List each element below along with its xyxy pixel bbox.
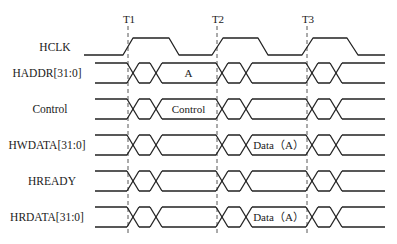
signal-label: Control [32, 103, 67, 115]
bus-hready [95, 171, 385, 191]
bus-value-label: Control [172, 103, 206, 115]
time-markers: T1T2T3 [123, 13, 315, 234]
hclk-waveform [84, 38, 385, 55]
bus-waveforms: AControlData（A）Data（A） [95, 63, 385, 227]
timing-diagram: T1T2T3 AControlData（A）Data（A） HADDR[31:0… [0, 0, 397, 244]
bus-value-label: Data（A） [253, 139, 304, 151]
marker-label-t2: T2 [212, 13, 224, 25]
signal-labels: HADDR[31:0]ControlHWDATA[31:0]HREADYHRDA… [8, 41, 85, 223]
bus-control: Control [95, 99, 385, 119]
hclk-signal [84, 38, 385, 55]
signal-label: HWDATA[31:0] [8, 139, 85, 151]
signal-label: HADDR[31:0] [13, 67, 82, 79]
bus-hrdata: Data（A） [95, 207, 385, 227]
bus-hwdata: Data（A） [95, 135, 385, 155]
signal-label-hclk: HCLK [39, 41, 71, 53]
signal-label: HRDATA[31:0] [10, 211, 84, 223]
bus-haddr: A [95, 63, 385, 83]
marker-label-t3: T3 [302, 13, 315, 25]
bus-value-label: Data（A） [253, 211, 304, 223]
bus-value-label: A [185, 67, 193, 79]
signal-label: HREADY [28, 175, 77, 187]
marker-label-t1: T1 [123, 13, 135, 25]
